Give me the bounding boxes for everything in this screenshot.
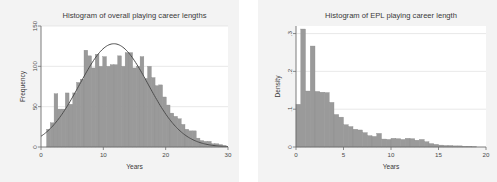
y-tick-label: .1 [286,106,293,112]
histogram-bar [151,78,155,147]
x-tick-label: 15 [435,151,442,158]
histogram-bar [178,119,182,147]
x-axis-ticks: 05101520 [294,147,490,158]
x-axis-ticks: 0102030 [39,147,232,158]
histogram-bar [296,104,301,147]
histogram-bar [396,139,401,147]
histogram-bar [121,66,125,147]
histogram-bar [429,144,434,147]
histogram-bar [334,114,339,147]
histogram-bar [377,133,382,147]
x-tick-label: 0 [39,151,43,158]
epl-career-histogram-chart: 051015200.1.2.3YearsDensityHistogram of … [258,0,497,182]
histogram-bar [155,86,159,147]
histogram-bar [129,53,133,147]
y-axis-ticks: 0.1.2.3 [286,30,296,148]
histogram-bar [339,117,344,147]
histogram-bar [174,116,178,147]
histogram-bar [415,140,420,147]
x-axis-title: Years [126,163,143,170]
histogram-bar [192,131,196,147]
y-tick-label: 0 [286,145,293,149]
histogram-bar [320,92,325,147]
x-tick-label: 0 [294,151,298,158]
histogram-bar [95,54,99,147]
two-panel-histogram-figure: 0102030050100150YearsFrequencyHistogram … [0,0,497,182]
y-tick-label: 50 [31,103,38,110]
x-tick-label: 10 [388,151,395,158]
histogram-bar [114,65,118,147]
histogram-bar [315,91,320,147]
histogram-bar [420,139,425,147]
overall-career-histogram-chart: 0102030050100150YearsFrequencyHistogram … [0,0,239,182]
histogram-bar [391,138,396,147]
y-tick-label: .2 [286,68,293,74]
x-tick-label: 5 [342,151,346,158]
histogram-bar [133,68,137,147]
histogram-bar [148,66,152,147]
histogram-bar [358,130,363,147]
y-tick-label: 150 [31,20,38,31]
histogram-bar [163,97,167,147]
chart-title: Histogram of overall playing career leng… [63,11,207,20]
histogram-bar [401,139,406,147]
histogram-bar [65,93,69,147]
histogram-bar [103,57,107,147]
histogram-bar [329,102,334,147]
histogram-bar [367,136,372,147]
histogram-bar [125,53,129,147]
histogram-bar [118,56,122,147]
histogram-bar [410,139,415,147]
histogram-bar [181,124,185,147]
histogram-bar [344,125,349,147]
chart-title: Histogram of EPL playing career length [325,11,457,20]
histogram-bar [301,29,306,147]
histogram-bar [80,79,84,147]
y-axis-title: Frequency [19,70,27,102]
histogram-bar [382,139,387,147]
x-tick-label: 20 [162,151,169,158]
histogram-bar [84,50,88,147]
histogram-bar [144,78,148,147]
histogram-bar [363,133,368,147]
histogram-bar [136,66,140,147]
histogram-bar [424,142,429,147]
histogram-bar [106,66,110,147]
histogram-bar [386,139,391,147]
x-tick-label: 30 [225,151,232,158]
left-chart-panel: 0102030050100150YearsFrequencyHistogram … [0,0,239,182]
histogram-bar [170,113,174,147]
histogram-bar [99,66,103,147]
x-tick-label: 20 [483,151,490,158]
y-axis-title: Density [274,75,282,98]
y-tick-label: 100 [31,61,38,72]
histogram-bar [69,104,73,147]
histogram-bar [306,91,311,147]
panel-divider [239,0,258,182]
histogram-bar [325,93,330,147]
y-axis-ticks: 050100150 [31,20,41,148]
histogram-bar [348,127,353,147]
histogram-bar [310,46,315,147]
histogram-bar [353,129,358,147]
histogram-bar [91,68,95,147]
histogram-bar [77,82,81,147]
histogram-bar [405,138,410,147]
x-tick-label: 10 [100,151,107,158]
histogram-bar [159,85,163,147]
histogram-bar [372,136,377,147]
histogram-bar [110,65,114,147]
histogram-bar [73,93,77,147]
x-axis-title: Years [383,163,400,170]
right-chart-panel: 051015200.1.2.3YearsDensityHistogram of … [258,0,497,182]
histogram-bar [185,129,189,147]
y-tick-label: .3 [286,30,293,36]
y-tick-label: 0 [31,145,38,149]
histogram-bar [166,105,170,147]
